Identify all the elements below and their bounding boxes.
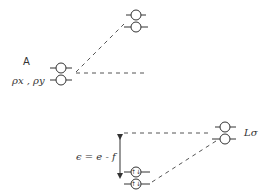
orbital-left-upper — [50, 63, 72, 73]
electron-pair: ↑↓ — [131, 168, 141, 175]
orbital-bottom-lower: ↑↓ — [124, 179, 150, 189]
orbital-right-lower — [212, 134, 236, 144]
orbital-top-upper — [126, 10, 146, 20]
dashed-connector-diagonal-top — [76, 24, 124, 72]
orbital-bottom-upper: ↑↓ — [124, 167, 150, 177]
electron-pair: ↑↓ — [131, 180, 141, 187]
orbital-top-lower — [124, 22, 148, 32]
label-L-sigma: Lσ — [243, 127, 259, 138]
orbital-left-lower — [50, 75, 72, 85]
label-p-orbitals: ρx , ρy — [11, 75, 45, 86]
orbital-right-upper — [215, 122, 236, 132]
label-energy: ϵ = e - f — [76, 151, 118, 162]
dashed-connector-diagonal-bottom — [152, 141, 216, 182]
orbital-diagram: A ρx , ρy ϵ = e - f ↑↓ ↑↓ Lσ — [0, 0, 279, 194]
label-A: A — [23, 56, 30, 67]
